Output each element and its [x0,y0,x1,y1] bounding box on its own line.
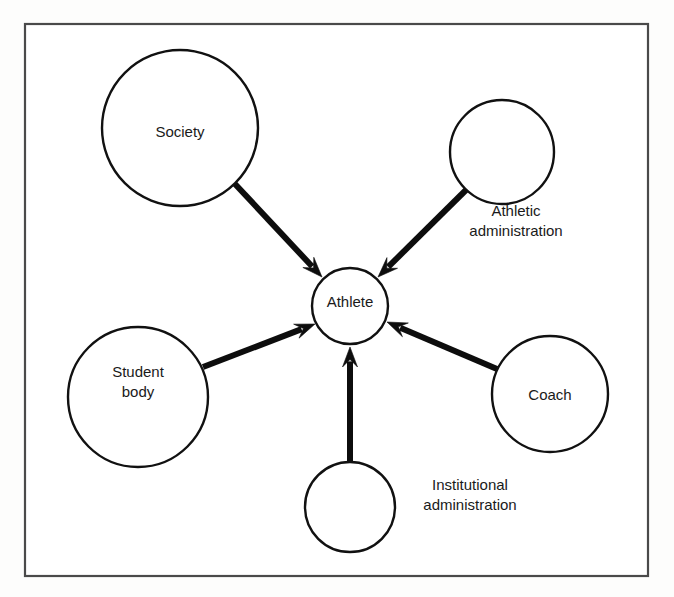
label-line: Coach [528,386,571,403]
node-circle-athletic-administration[interactable] [450,100,554,204]
node-label-society: Society [155,123,205,140]
node-label-coach: Coach [528,386,571,403]
label-line: body [122,383,155,400]
label-line: administration [423,496,516,513]
label-line: Athletic [491,202,541,219]
node-label-athlete: Athlete [327,293,374,310]
diagram-canvas: SocietyAthleticadministrationAthleteStud… [0,0,674,597]
label-line: administration [469,222,562,239]
label-line: Athlete [327,293,374,310]
influence-diagram: SocietyAthleticadministrationAthleteStud… [0,0,674,597]
label-line: Student [112,363,165,380]
node-circle-institutional-administration[interactable] [305,462,395,552]
label-line: Institutional [432,476,508,493]
label-line: Society [155,123,205,140]
